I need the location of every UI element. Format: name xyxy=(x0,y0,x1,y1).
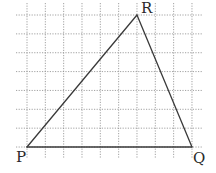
triangle-edges xyxy=(27,15,192,147)
vertex-label-q: Q xyxy=(193,149,205,167)
triangle-diagram: P Q R xyxy=(0,0,216,173)
edge-qr xyxy=(137,15,192,147)
dotted-grid xyxy=(16,3,203,158)
vertex-label-p: P xyxy=(16,148,26,166)
vertex-labels: P Q R xyxy=(16,0,205,167)
vertex-label-r: R xyxy=(141,0,153,17)
